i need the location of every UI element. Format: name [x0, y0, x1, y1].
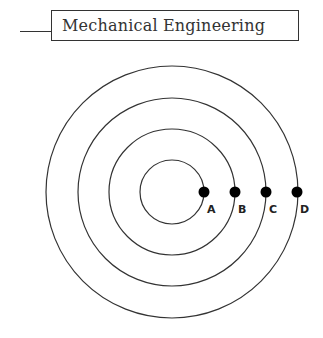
points-group: ABCD [199, 187, 310, 217]
circle-4 [46, 66, 298, 318]
point-c-dot [261, 187, 272, 198]
circles-group [46, 66, 298, 318]
point-b-label: B [238, 203, 246, 216]
circle-2 [109, 129, 235, 255]
point-d-dot [292, 187, 303, 198]
point-d-label: D [300, 203, 309, 216]
point-a-label: A [207, 203, 216, 216]
circle-1 [140, 160, 204, 224]
point-a-dot [199, 187, 210, 198]
point-b-dot [230, 187, 241, 198]
point-c-label: C [269, 203, 277, 216]
concentric-circles-diagram: ABCD [0, 0, 323, 338]
